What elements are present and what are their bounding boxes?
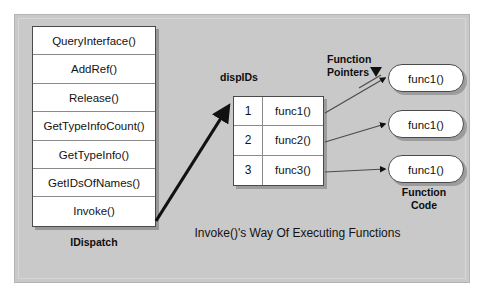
dispid-value: 2 bbox=[234, 126, 263, 154]
idispatch-method-row: AddRef() bbox=[33, 55, 155, 83]
dispids-table: 1 func1() 2 func2() 3 func3() bbox=[233, 96, 324, 186]
function-code-label: Function Code bbox=[381, 186, 467, 211]
diagram-caption: Invoke()'s Way Of Executing Functions bbox=[190, 225, 405, 241]
function-pointers-label-line1: Function bbox=[327, 53, 371, 66]
dispids-label: dispIDs bbox=[220, 71, 258, 83]
dispid-function-name: func3() bbox=[263, 156, 323, 185]
idispatch-method-row: Release() bbox=[33, 84, 155, 112]
function-code-oval: func1() bbox=[388, 64, 464, 92]
function-pointers-label: Function Pointers bbox=[327, 53, 371, 78]
dispids-row: 2 func2() bbox=[234, 126, 323, 155]
dispid-function-name: func2() bbox=[263, 126, 323, 154]
function-code-oval: func1() bbox=[388, 110, 464, 138]
function-pointers-label-line2: Pointers bbox=[327, 66, 371, 79]
idispatch-method-row: GetTypeInfo() bbox=[33, 141, 155, 169]
idispatch-method-row: GetIDsOfNames() bbox=[33, 169, 155, 197]
function-code-oval: func1() bbox=[388, 155, 464, 183]
dispids-row: 1 func1() bbox=[234, 97, 323, 126]
idispatch-method-row: QueryInterface() bbox=[33, 27, 155, 55]
idispatch-method-row: GetTypeInfoCount() bbox=[33, 112, 155, 140]
idispatch-method-row: Invoke() bbox=[33, 197, 155, 225]
diagram-canvas: QueryInterface() AddRef() Release() GetT… bbox=[0, 0, 489, 302]
dispid-value: 3 bbox=[234, 156, 263, 185]
function-code-label-line2: Code bbox=[381, 199, 467, 212]
dispid-value: 1 bbox=[234, 97, 263, 125]
dispid-function-name: func1() bbox=[263, 97, 323, 125]
idispatch-vtable: QueryInterface() AddRef() Release() GetT… bbox=[32, 26, 156, 227]
function-code-label-line1: Function bbox=[381, 186, 467, 199]
dispids-row: 3 func3() bbox=[234, 156, 323, 185]
idispatch-caption: IDispatch bbox=[32, 236, 156, 248]
